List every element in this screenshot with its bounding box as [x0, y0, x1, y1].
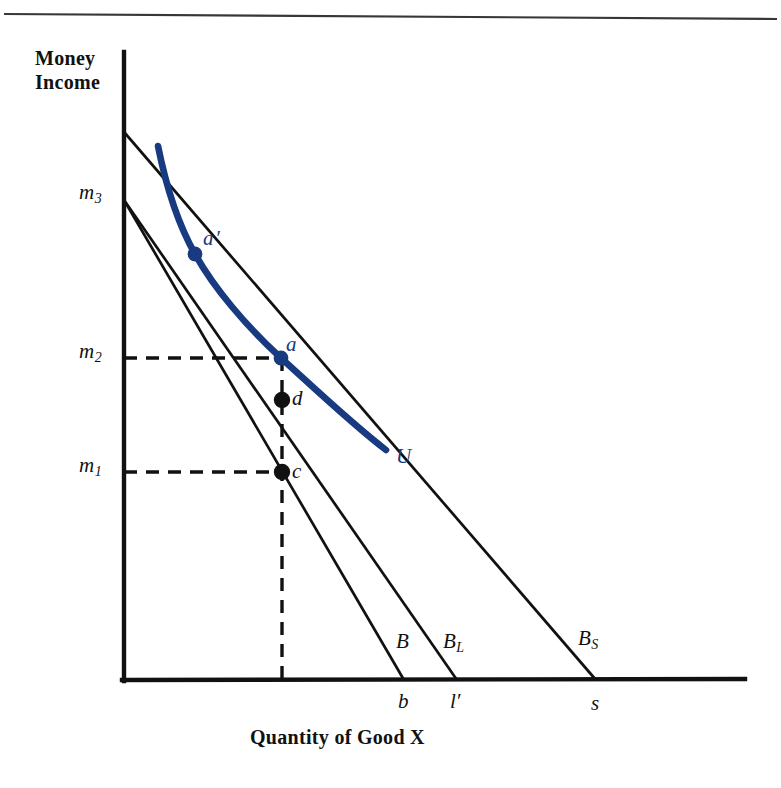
point-a-prime [188, 247, 203, 262]
x-axis-line [122, 679, 745, 680]
y-tick-m2-base: m [79, 339, 94, 363]
budget-B-base: B [396, 629, 409, 653]
point-c [274, 464, 290, 480]
y-tick-m3-base: m [79, 180, 94, 204]
y-tick-label-m2: m2 [79, 341, 102, 365]
budget-line-label-BL: BL [443, 631, 464, 655]
y-tick-m3-subscript: 3 [95, 191, 102, 206]
top-divider-rule [4, 14, 777, 19]
budget-line-BL [124, 200, 457, 680]
x-tick-label-b: b [398, 691, 409, 712]
y-tick-m2-subscript: 2 [95, 350, 102, 365]
diagram-canvas [0, 0, 781, 788]
budget-line-BS [124, 132, 596, 680]
budget-BS-subscript: S [591, 637, 598, 652]
point-d [274, 392, 290, 408]
budget-BS-base: B [578, 626, 591, 650]
x-tick-label-l-prime: l′ [450, 691, 460, 712]
point-label-d: d [292, 388, 303, 409]
y-axis-title-line1: Money [35, 47, 95, 69]
point-label-c: c [292, 461, 301, 482]
budget-line-label-BS: BS [578, 628, 598, 652]
budget-line-label-B: B [396, 631, 409, 655]
y-tick-m1-base: m [79, 453, 94, 477]
y-tick-label-m1: m1 [79, 455, 102, 479]
point-label-a-prime: a′ [203, 228, 221, 249]
y-tick-m1-subscript: 1 [95, 464, 102, 479]
figure-container: Money Income Quantity of Good X m3 m2 m1… [0, 0, 781, 788]
budget-BL-subscript: L [456, 640, 464, 655]
y-axis-title: Money Income [35, 48, 100, 92]
x-tick-label-s: s [591, 693, 599, 714]
indifference-curve-label-U: U [396, 446, 411, 467]
y-tick-label-m3: m3 [79, 182, 102, 206]
point-label-a: a [286, 334, 297, 355]
budget-BL-base: B [443, 629, 456, 653]
y-axis-title-line2: Income [35, 72, 100, 92]
x-axis-title: Quantity of Good X [250, 727, 425, 747]
point-a-prime-base: a [203, 226, 214, 250]
point-a-prime-mark: ′ [217, 226, 222, 250]
budget-line-B [124, 200, 404, 680]
